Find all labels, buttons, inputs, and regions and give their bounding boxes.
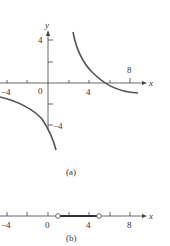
y-axis-label: y (45, 21, 49, 30)
number-line-arrow-icon (142, 214, 147, 218)
number-line-x-label: x (149, 212, 153, 221)
tick-x-neg4: −4 (1, 88, 11, 97)
tick-y-4: 4 (38, 36, 43, 45)
caption-b: (b) (66, 234, 77, 243)
tick-y-neg4: −4 (53, 122, 63, 131)
tick-x-8: 8 (127, 66, 132, 75)
curve-right-branch (73, 32, 138, 93)
b-tick-x-neg4: −4 (1, 221, 11, 230)
caption-a: (a) (66, 168, 76, 177)
b-tick-x-0: 0 (45, 221, 50, 230)
tick-x-4: 4 (86, 88, 91, 97)
b-tick-x-8: 8 (127, 221, 132, 230)
open-endpoint-right-icon (97, 214, 102, 219)
open-endpoint-left-icon (56, 214, 61, 219)
panel-a-axes (0, 34, 142, 130)
b-tick-x-4: 4 (86, 221, 91, 230)
y-axis-arrow-icon (46, 30, 50, 36)
tick-x-0: 0 (38, 87, 43, 96)
x-axis-label: x (149, 79, 153, 88)
x-axis-arrow-icon (142, 81, 147, 85)
figure-canvas (0, 0, 170, 246)
